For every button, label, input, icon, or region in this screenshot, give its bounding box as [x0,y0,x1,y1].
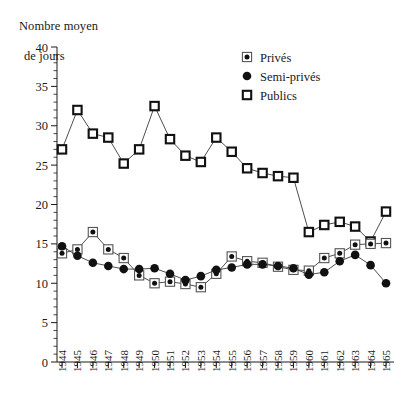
y-axis-title: Nombre moyen de jours [6,4,98,94]
square-with-dot-icon-center [384,241,389,246]
data-point [351,222,359,230]
data-point [104,262,113,271]
data-point [335,249,344,258]
open-square-icon [181,151,189,159]
data-point [381,238,390,247]
data-point [165,277,174,286]
data-point [366,261,375,270]
square-with-dot-icon-center [90,230,95,235]
open-square-icon [336,218,344,226]
data-point [166,135,174,143]
filled-circle-icon [366,261,375,270]
filled-circle-icon [227,263,236,272]
y-tick-label: 30 [36,119,49,133]
data-point [366,239,375,248]
square-with-dot-icon-center [353,242,358,247]
data-point [212,133,220,141]
data-point [289,174,297,182]
data-point [351,251,360,260]
open-square-icon [73,106,81,114]
y-tick-label: 10 [36,277,49,291]
data-point [305,270,314,279]
filled-circle-icon [305,270,314,279]
filled-circle-icon [243,72,252,81]
x-tick-label: 1961 [318,350,330,372]
y-tick-label: 20 [36,198,49,212]
x-tick-label: 1946 [87,350,99,373]
y-tick-label: 5 [42,316,48,330]
filled-circle-icon [104,262,113,271]
x-axis: 1944194519461947194819491950195119521953… [56,350,394,373]
data-point [58,242,67,251]
data-point [305,228,313,236]
filled-circle-icon [150,264,159,273]
data-point [196,283,205,292]
data-point [243,164,251,172]
filled-circle-icon [58,242,67,251]
legend-item-semi-priv-s[interactable]: Semi-privés [243,70,321,84]
data-point [243,260,252,269]
data-point [119,253,128,262]
data-point [150,102,158,110]
data-point [58,145,66,153]
data-point [104,133,112,141]
square-with-dot-icon-center [322,256,327,261]
chart-legend: PrivésSemi-privésPublics [242,51,320,103]
filled-circle-icon [320,268,329,277]
x-tick-label: 1950 [149,350,161,373]
square-with-dot-icon-center [337,251,342,256]
filled-circle-icon [135,265,144,274]
open-square-icon [89,129,97,137]
x-tick-label: 1958 [272,350,284,373]
open-square-icon [104,133,112,141]
legend-item-publics[interactable]: Publics [243,89,297,103]
filled-circle-icon [274,262,283,271]
legend-label: Publics [260,89,297,103]
data-point [166,270,175,279]
square-with-dot-icon-center [137,273,142,278]
filled-circle-icon [351,251,360,260]
filled-circle-icon [197,272,206,281]
x-tick-label: 1965 [380,350,392,373]
square-with-dot-icon-center [368,241,373,246]
open-square-icon [166,135,174,143]
chart-figure: Nombre moyen de jours 0510152025303540 1… [0,0,399,411]
data-point [197,272,206,281]
filled-circle-icon [243,260,252,269]
data-point [73,251,82,260]
filled-circle-icon [181,276,190,285]
data-point [382,207,390,215]
data-point [258,169,266,177]
open-square-icon [135,145,143,153]
data-point [228,148,236,156]
legend-item-priv-s[interactable]: Privés [242,51,291,65]
data-point [119,265,128,274]
filled-circle-icon [212,266,221,275]
open-square-icon [197,158,205,166]
x-tick-label: 1960 [303,350,315,373]
x-tick-label: 1948 [118,350,130,373]
y-tick-label: 0 [42,356,48,370]
data-point [320,253,329,262]
square-with-dot-icon-center [198,285,203,290]
y-axis-title-line2: de jours [6,49,98,64]
filled-circle-icon [119,265,128,274]
series-publics [58,102,390,246]
open-square-icon [150,102,158,110]
open-square-icon [258,169,266,177]
square-with-dot-icon-center [229,254,234,259]
open-square-icon [243,91,251,99]
data-point [150,279,159,288]
open-square-icon [274,172,282,180]
open-square-icon [305,228,313,236]
data-point [89,258,98,267]
open-square-icon [320,221,328,229]
y-axis-title-line1: Nombre moyen [19,19,98,33]
data-point [73,106,81,114]
x-tick-label: 1954 [210,350,222,373]
open-square-icon [58,145,66,153]
filled-circle-icon [335,257,344,266]
y-tick-label: 25 [36,159,49,173]
data-point [382,279,391,288]
data-point [335,257,344,266]
